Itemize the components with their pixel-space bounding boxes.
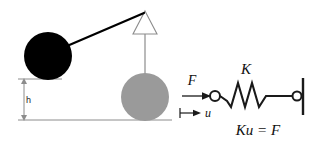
pendulum-group: h — [18, 11, 172, 121]
diagram-canvas: h F u K — [0, 0, 314, 150]
physics-diagram-figure: h F u K — [0, 0, 314, 150]
stiffness-label: K — [240, 61, 252, 77]
displacement-arrow — [180, 108, 201, 118]
spring-anchor-circle — [293, 92, 302, 101]
gray-bob — [121, 73, 169, 121]
force-arrow — [182, 92, 211, 100]
pivot-arrowhead-triangle — [133, 11, 157, 34]
height-label: h — [26, 95, 31, 105]
spring-system-group: F u K Ku = F — [180, 61, 303, 138]
spring-left-node-circle — [210, 91, 220, 101]
spring-equation-label: Ku = F — [235, 122, 281, 138]
spring-coil — [220, 83, 292, 107]
force-label: F — [187, 73, 197, 88]
black-bob — [24, 32, 72, 80]
displacement-label: u — [205, 106, 211, 120]
